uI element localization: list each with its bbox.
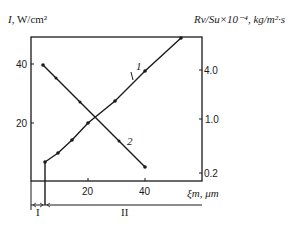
y-right-label-4: 4.0 — [204, 65, 218, 76]
x-label-20: 20 — [82, 186, 94, 197]
x-title: ξm, μm — [187, 187, 219, 200]
chart-figure: I, W/cm² Rv/Su×10⁻⁴, kg/m²·s 40 20 4.0 1… — [0, 0, 301, 231]
y-right-title: Rv/Su×10⁻⁴, kg/m²·s — [193, 13, 285, 25]
curve-1-line — [45, 38, 181, 205]
curve-1-leader — [131, 72, 133, 80]
y-right-label-02: 0.2 — [204, 168, 218, 179]
x-label-40: 40 — [139, 186, 151, 197]
plot-frame — [31, 37, 202, 181]
y-left-label-20: 20 — [16, 118, 28, 129]
curve-1-label: 1 — [136, 60, 142, 72]
region-2-label: II — [121, 206, 129, 218]
y-left-label-40: 40 — [16, 59, 28, 70]
y-right-label-1: 1.0 — [205, 114, 219, 125]
curve-2-label: 2 — [127, 135, 133, 147]
region-1-label: I — [36, 206, 40, 218]
y-left-title: I, W/cm² — [7, 13, 48, 25]
